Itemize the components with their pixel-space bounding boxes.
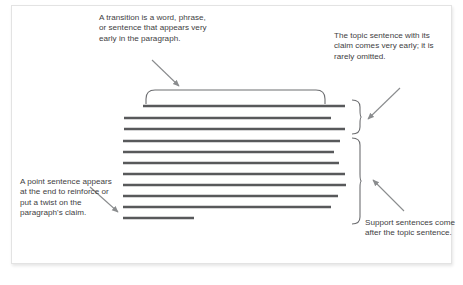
topic-arrow: [368, 88, 400, 119]
transition-arrow: [152, 60, 179, 86]
support-arrow: [373, 180, 404, 211]
topic-sentence-bracket: [352, 100, 362, 134]
arrow-group: [90, 60, 404, 212]
transition-bracket: [146, 90, 325, 104]
support-sentences-bracket: [352, 138, 362, 224]
bracket-group: [146, 90, 362, 224]
paragraph-line-group: [123, 106, 346, 218]
callout-transition: A transition is a word, phrase, or sente…: [99, 13, 209, 44]
paragraph-structure-diagram: A transition is a word, phrase, or sente…: [0, 0, 463, 285]
callout-topic-sentence: The topic sentence with its claim comes …: [334, 31, 440, 62]
callout-point-sentence: A point sentence appears at the end to r…: [20, 177, 118, 219]
callout-support-sentences: Support sentences come after the topic s…: [365, 218, 463, 239]
